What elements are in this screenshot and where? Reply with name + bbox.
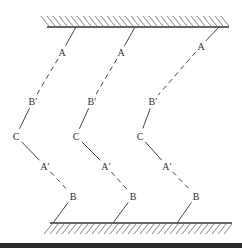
solid-segment <box>22 142 40 160</box>
label-a: A <box>58 47 66 58</box>
dashed-segment <box>111 172 127 190</box>
label-a-prime: A′ <box>101 161 110 172</box>
solid-segment <box>177 203 191 223</box>
dashed-segment <box>173 172 191 190</box>
label-a-prime: A′ <box>162 161 171 172</box>
bottom-wall <box>44 223 232 234</box>
label-b-prime: B′ <box>29 96 38 107</box>
dashed-segment <box>50 172 67 190</box>
top-wall <box>41 16 229 27</box>
label-a-prime: A′ <box>40 161 49 172</box>
dashed-segment <box>158 52 195 95</box>
solid-segment <box>19 108 29 129</box>
label-b: B <box>130 191 137 202</box>
label-c: C <box>13 131 20 142</box>
solid-segment <box>206 27 219 41</box>
label-c: C <box>137 131 144 142</box>
label-b-prime: B′ <box>149 96 158 107</box>
chain-1: AB′CA′B <box>13 27 77 223</box>
label-b-prime: B′ <box>88 96 97 107</box>
solid-segment <box>145 142 161 160</box>
label-c: C <box>73 131 80 142</box>
dashed-segment <box>96 59 117 94</box>
solid-segment <box>113 202 128 223</box>
solid-segment <box>53 202 68 223</box>
label-a: A <box>117 47 125 58</box>
label-b: B <box>193 191 200 202</box>
bottom-bar <box>0 243 242 248</box>
solid-segment <box>82 142 101 161</box>
dashed-segment <box>37 59 58 94</box>
solid-segment <box>124 27 135 46</box>
solid-segment <box>65 27 76 46</box>
strut-diagram: AB′CA′B AB′CA′B AB′CA′B <box>0 0 242 248</box>
solid-segment <box>79 108 88 128</box>
chain-2: AB′CA′B <box>73 27 137 223</box>
chain-3: AB′CA′B <box>137 27 219 223</box>
label-b: B <box>70 191 77 202</box>
solid-segment <box>143 108 150 128</box>
label-a: A <box>197 41 205 52</box>
